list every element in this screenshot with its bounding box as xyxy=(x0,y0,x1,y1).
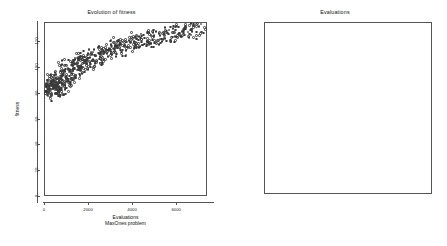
data-point xyxy=(135,46,138,49)
data-point xyxy=(113,50,116,53)
data-point xyxy=(188,36,191,39)
left-x-tick xyxy=(88,202,89,205)
left-plot-title: Evolution of fitness xyxy=(0,8,223,16)
data-point xyxy=(119,43,122,46)
data-point xyxy=(132,43,135,46)
panel-evaluations-boxplot: Evaluations 2000400060008000100001200014… xyxy=(223,0,447,246)
left-y-ticklabel: 60 xyxy=(34,111,39,127)
data-point xyxy=(45,84,48,87)
data-point xyxy=(110,47,113,50)
left-x-axis xyxy=(43,202,214,203)
data-point xyxy=(93,65,96,68)
data-point xyxy=(68,84,71,87)
data-point xyxy=(57,77,60,80)
data-point xyxy=(63,64,66,67)
data-point xyxy=(94,55,97,58)
data-point xyxy=(174,39,177,42)
data-point xyxy=(152,29,155,32)
data-point xyxy=(131,50,134,53)
left-x-tick xyxy=(132,202,133,205)
data-point xyxy=(50,100,53,103)
data-point xyxy=(104,58,107,61)
data-point xyxy=(125,47,128,50)
left-y-ticklabel: 100 xyxy=(34,59,39,75)
left-x-tick xyxy=(44,202,45,205)
data-point xyxy=(142,34,145,37)
data-point xyxy=(175,23,178,26)
data-point xyxy=(64,84,67,87)
data-point xyxy=(60,74,63,77)
data-point xyxy=(115,53,118,56)
data-point xyxy=(140,41,143,44)
data-point xyxy=(152,35,155,38)
data-point xyxy=(174,26,177,29)
left-yaxis-title: fitness xyxy=(14,79,21,139)
left-x-ticklabel: 6000 xyxy=(167,207,185,212)
data-point xyxy=(74,76,77,79)
left-x-ticklabel: 4000 xyxy=(123,207,141,212)
left-xaxis-title-line2: MaxOnes problem xyxy=(44,220,207,227)
left-y-ticklabel: 20 xyxy=(34,162,39,178)
data-point xyxy=(86,57,89,60)
data-point xyxy=(146,37,149,40)
data-point xyxy=(190,22,193,25)
data-point xyxy=(65,77,68,80)
data-point xyxy=(115,45,118,48)
data-point xyxy=(157,39,160,42)
data-point xyxy=(107,55,110,58)
data-point xyxy=(73,81,76,84)
data-point xyxy=(58,88,61,91)
data-point xyxy=(85,63,88,66)
data-point xyxy=(195,31,198,34)
data-point xyxy=(124,38,127,41)
data-point xyxy=(52,82,55,85)
data-point xyxy=(82,50,85,53)
data-point xyxy=(67,90,70,93)
data-point xyxy=(117,40,120,43)
data-point xyxy=(111,53,114,56)
data-point xyxy=(59,77,62,80)
data-point xyxy=(192,36,195,39)
data-point xyxy=(158,43,161,46)
data-point xyxy=(60,89,63,92)
data-point xyxy=(78,77,81,80)
data-point xyxy=(165,40,168,43)
data-point xyxy=(64,93,67,96)
data-point xyxy=(57,61,60,64)
data-point xyxy=(195,34,198,37)
data-point xyxy=(112,36,115,39)
left-y-ticklabel: 40 xyxy=(34,136,39,152)
data-point xyxy=(181,34,184,37)
data-point xyxy=(89,53,92,56)
data-point xyxy=(75,52,78,55)
left-y-ticklabel: 80 xyxy=(34,85,39,101)
left-x-ticklabel: 2000 xyxy=(79,207,97,212)
data-point xyxy=(129,46,132,49)
data-point xyxy=(176,34,179,37)
data-point xyxy=(153,39,156,42)
data-point xyxy=(70,64,73,67)
data-point xyxy=(204,28,207,31)
data-point xyxy=(100,55,103,58)
data-point xyxy=(192,26,195,29)
left-x-ticklabel: 0 xyxy=(35,207,53,212)
data-point xyxy=(98,52,101,55)
data-point xyxy=(69,70,72,73)
data-point xyxy=(110,57,113,60)
data-point xyxy=(87,65,90,68)
data-point xyxy=(88,48,91,51)
data-point xyxy=(55,73,58,76)
left-y-ticklabel: 0 xyxy=(34,188,39,204)
figure-canvas: Evolution of fitness 0200040006000020406… xyxy=(0,0,447,246)
data-point xyxy=(105,43,108,46)
data-point xyxy=(128,36,131,39)
data-point xyxy=(137,39,140,42)
data-point xyxy=(57,92,60,95)
left-y-ticklabel: 120 xyxy=(34,33,39,49)
right-plot-title: Evaluations xyxy=(223,8,447,16)
data-point xyxy=(120,52,123,55)
data-point xyxy=(108,49,111,52)
data-point xyxy=(152,46,155,49)
data-point xyxy=(44,91,47,94)
data-point xyxy=(184,26,187,29)
